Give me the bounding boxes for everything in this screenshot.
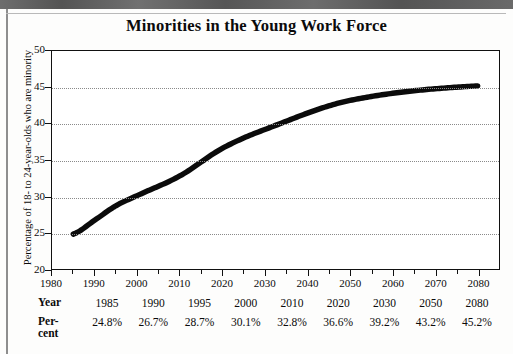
x-axis-label-2080: 2080 <box>457 277 501 289</box>
gridline-y-45 <box>52 88 499 89</box>
x-tick-1980 <box>51 270 52 276</box>
x-tick-2010 <box>179 270 180 276</box>
x-axis-label-1990: 1990 <box>72 277 116 289</box>
table-cell-percent: 43.2% <box>408 316 454 341</box>
x-axis-label-2040: 2040 <box>286 277 330 289</box>
x-minor-tick-2065 <box>414 270 415 274</box>
scan-edge-band <box>0 0 513 9</box>
gridline-y-30 <box>52 198 499 199</box>
x-tick-2050 <box>350 270 351 276</box>
y-axis-label-20: 20 <box>19 264 45 275</box>
table-row-percent: Per- cent 24.8%26.7%28.7%30.1%32.8%36.6%… <box>38 316 500 341</box>
x-minor-tick-2025 <box>243 270 244 274</box>
table-cell-year: 2030 <box>361 297 407 316</box>
x-minor-tick-2055 <box>372 270 373 274</box>
x-minor-tick-2075 <box>457 270 458 274</box>
table-cell-year: 1985 <box>84 297 130 316</box>
x-tick-2060 <box>393 270 394 276</box>
x-minor-tick-2045 <box>329 270 330 274</box>
row-header-percent-line1: Per- <box>38 316 84 328</box>
x-axis-label-2030: 2030 <box>243 277 287 289</box>
x-minor-tick-2015 <box>201 270 202 274</box>
row-header-percent-line2: cent <box>38 328 84 340</box>
x-minor-tick-2005 <box>158 270 159 274</box>
x-tick-2030 <box>265 270 266 276</box>
gridline-y-35 <box>52 161 499 162</box>
row-header-percent: Per- cent <box>38 316 84 341</box>
plot-area <box>51 50 500 270</box>
table-cell-year: 1995 <box>176 297 222 316</box>
table-cell-percent: 30.1% <box>223 316 269 341</box>
gridline-y-25 <box>52 234 499 235</box>
x-axis-label-2050: 2050 <box>328 277 372 289</box>
table-cell-percent: 28.7% <box>176 316 222 341</box>
y-axis-label-45: 45 <box>19 81 45 92</box>
table-cell-year: 1990 <box>130 297 176 316</box>
line-series-minority-percentage <box>52 51 499 269</box>
table-cell-percent: 45.2% <box>454 316 500 341</box>
table-cell-percent: 36.6% <box>315 316 361 341</box>
table-cell-year: 2080 <box>454 297 500 316</box>
x-axis-label-2010: 2010 <box>157 277 201 289</box>
y-axis-label-30: 30 <box>19 191 45 202</box>
x-minor-tick-1995 <box>115 270 116 274</box>
x-tick-2020 <box>222 270 223 276</box>
y-axis-label-25: 25 <box>19 227 45 238</box>
y-axis-label-35: 35 <box>19 154 45 165</box>
x-tick-2040 <box>308 270 309 276</box>
table-cell-percent: 39.2% <box>361 316 407 341</box>
x-tick-2070 <box>436 270 437 276</box>
table-cell-percent: 32.8% <box>269 316 315 341</box>
page-top-border <box>6 13 506 14</box>
x-minor-tick-2035 <box>286 270 287 274</box>
page-title: Minorities in the Young Work Force <box>0 16 513 36</box>
table-cell-year: 2010 <box>269 297 315 316</box>
x-axis-label-1980: 1980 <box>29 277 73 289</box>
x-axis-label-2070: 2070 <box>414 277 458 289</box>
x-axis-label-2060: 2060 <box>371 277 415 289</box>
table-cell-year: 2050 <box>408 297 454 316</box>
y-axis-label-50: 50 <box>19 44 45 55</box>
y-axis-label-40: 40 <box>19 117 45 128</box>
x-tick-2080 <box>479 270 480 276</box>
gridline-y-40 <box>52 124 499 125</box>
x-axis-label-2000: 2000 <box>115 277 159 289</box>
x-minor-tick-1985 <box>72 270 73 274</box>
table-cell-percent: 26.7% <box>130 316 176 341</box>
x-tick-2000 <box>137 270 138 276</box>
table-cell-percent: 24.8% <box>84 316 130 341</box>
page-left-border <box>6 9 8 354</box>
table-row-year: Year 19851990199520002010202020302050208… <box>38 297 500 316</box>
table-cell-year: 2000 <box>223 297 269 316</box>
x-axis-label-2020: 2020 <box>200 277 244 289</box>
row-header-year: Year <box>38 297 84 316</box>
data-table: Year 19851990199520002010202020302050208… <box>38 297 500 341</box>
x-tick-1990 <box>94 270 95 276</box>
table-cell-year: 2020 <box>315 297 361 316</box>
